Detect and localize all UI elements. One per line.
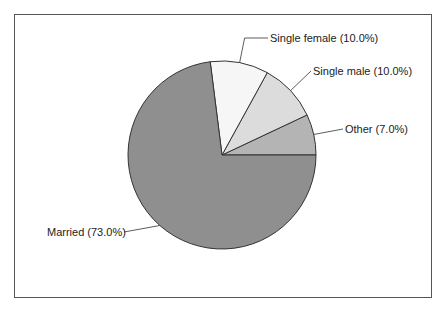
label-married: Married (73.0%) — [47, 226, 126, 238]
leader-line-single-male — [291, 71, 311, 91]
leader-line-married — [124, 226, 160, 232]
label-other: Other (7.0%) — [345, 123, 408, 135]
leader-line-single-female — [240, 38, 268, 63]
label-single-female: Single female (10.0%) — [270, 32, 378, 44]
pie-chart: Single female (10.0%) Single male (10.0%… — [0, 0, 447, 314]
label-single-male: Single male (10.0%) — [313, 65, 412, 77]
leader-line-other — [314, 129, 343, 134]
